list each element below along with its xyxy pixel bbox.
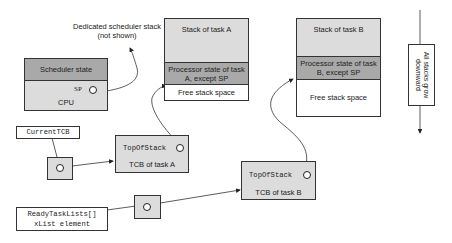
sp-label: SP	[71, 85, 85, 94]
cpu-register-region: SP CPU	[25, 81, 107, 110]
current-tcb-pointer-icon	[56, 164, 64, 172]
tcb-b-label: TCB of task B	[242, 188, 315, 197]
cpu-label: CPU	[25, 98, 107, 107]
ready-list-label-line1: ReadyTaskLists[]	[17, 209, 107, 219]
scheduler-state-region: Scheduler state	[25, 59, 107, 81]
tcb-task-b: TopOfStack TCB of task B	[241, 161, 316, 200]
growth-note-text: All stacks grow downward	[414, 45, 430, 105]
ready-list-label-line2: xList element	[17, 219, 107, 229]
tcb-task-a: TopOfStack TCB of task A	[115, 135, 189, 173]
growth-note-box: All stacks grow downward	[408, 44, 435, 106]
ready-list-pointer-icon	[143, 203, 151, 211]
tcb-b-topofstack-label: TopOfStack	[249, 171, 292, 179]
cpu-block: Scheduler state SP CPU	[24, 58, 108, 111]
current-tcb-label: CurrentTCB	[16, 126, 80, 139]
ready-list-label: ReadyTaskLists[] xList element	[16, 207, 108, 231]
tcb-a-topofstack-pointer-icon	[176, 144, 184, 152]
tcb-b-topofstack-pointer-icon	[303, 171, 311, 179]
scheduler-stack-annotation: Dedicated scheduler stack (not shown)	[72, 22, 162, 40]
ready-list-pointer	[134, 195, 161, 219]
tcb-a-label: TCB of task A	[116, 160, 188, 169]
current-tcb-pointer	[47, 157, 73, 180]
task-a-free-space: Free stack space	[165, 85, 248, 100]
task-b-free-space: Free stack space	[297, 80, 380, 116]
task-a-stack-used: Stack of task A	[165, 19, 248, 63]
task-a-stack: Stack of task A Processor state of task …	[164, 18, 249, 101]
task-b-stack: Stack of task B Processor state of task …	[296, 18, 381, 117]
task-b-stack-used: Stack of task B	[297, 19, 380, 57]
task-b-processor-state: Processor state of task B, except SP	[297, 57, 380, 80]
task-a-processor-state: Processor state of task A, except SP	[165, 63, 248, 85]
tcb-a-topofstack-label: TopOfStack	[123, 144, 166, 152]
sp-pointer-icon	[89, 86, 97, 94]
